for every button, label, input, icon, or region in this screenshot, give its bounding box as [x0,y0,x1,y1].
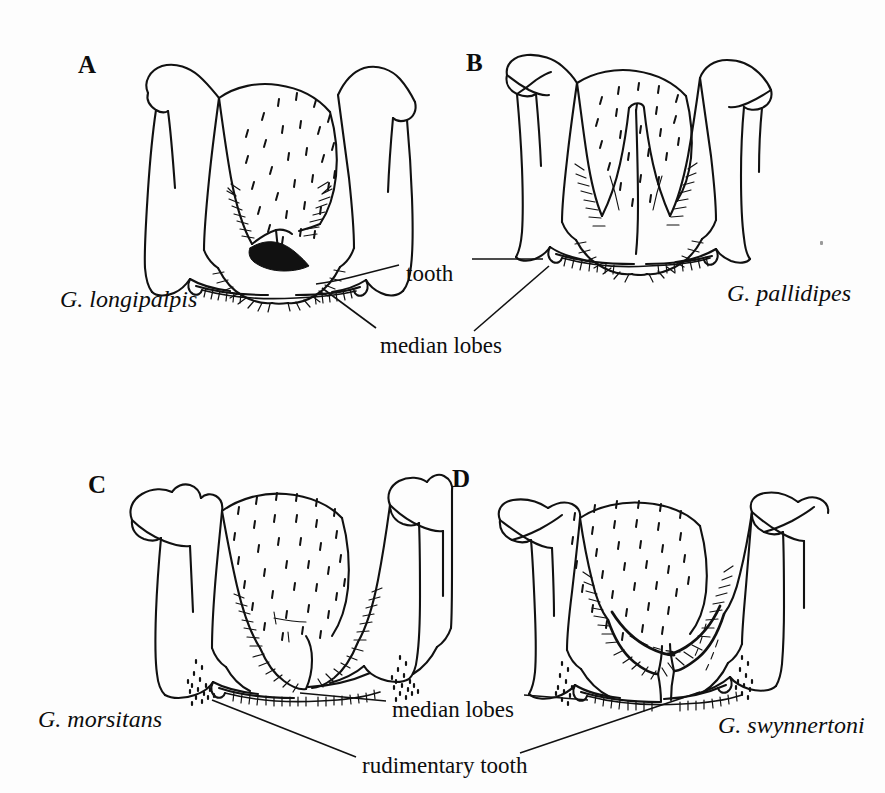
callout-rudimentary-tooth: rudimentary tooth [362,754,527,777]
callout-median-lobes-bottom: median lobes [392,698,514,721]
panel-a-drawing [145,65,416,312]
callout-median-lobes-top: median lobes [380,334,502,357]
panel-c-leaders [212,693,386,757]
panel-letter-b: B [466,50,483,75]
panel-c-drawing [130,475,452,706]
panel-b-leaders [472,259,549,331]
callout-tooth: tooth [406,262,453,285]
panel-letter-c: C [88,472,107,497]
panel-b-drawing [506,55,771,282]
species-name-longipalpis: G. longipalpis [60,287,197,311]
panel-letter-a: A [78,52,97,77]
panel-letter-d: D [452,466,471,491]
species-name-pallidipes: G. pallidipes [727,281,851,305]
figure-plate: A B C D G. longipalpis G. pallidipes G. … [0,0,885,793]
panel-d-drawing [499,493,828,711]
line-art-layer [0,0,885,793]
species-name-morsitans: G. morsitans [38,707,162,731]
dust-speck [820,241,823,245]
species-name-swynnertoni: G. swynnertoni [718,713,865,737]
